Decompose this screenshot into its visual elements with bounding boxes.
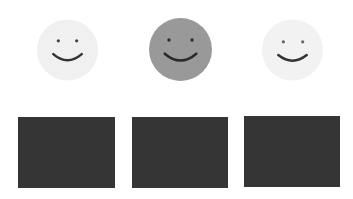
dark-tile-3[interactable] xyxy=(244,116,340,187)
smiley-face-2[interactable] xyxy=(149,17,212,82)
smiley-icon xyxy=(37,19,98,81)
smiley-icon xyxy=(149,17,212,82)
smiley-face-1[interactable] xyxy=(37,19,98,81)
dark-tile-2[interactable] xyxy=(132,117,228,188)
smiley-face-3[interactable] xyxy=(262,19,323,81)
smiley-icon xyxy=(262,19,323,81)
dark-tile-1[interactable] xyxy=(18,117,115,188)
